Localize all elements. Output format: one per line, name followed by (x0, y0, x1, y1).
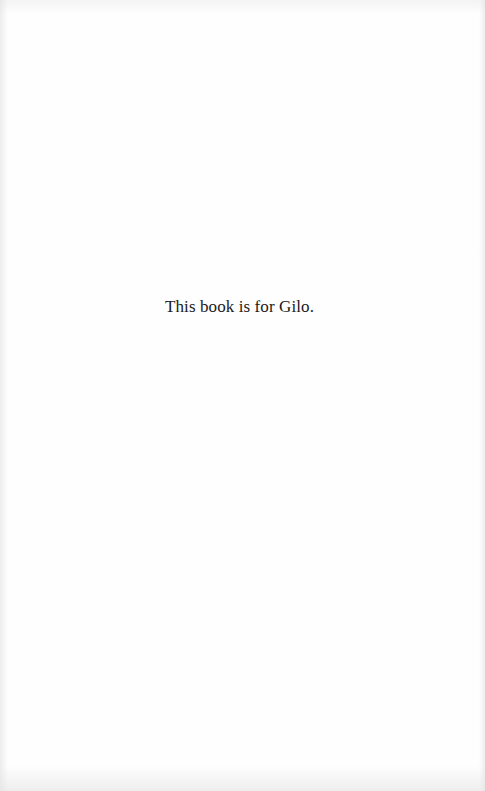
book-page: This book is for Gilo. (0, 0, 485, 791)
scan-edge-right (479, 0, 485, 791)
dedication-text: This book is for Gilo. (165, 297, 314, 317)
scan-edge-top (0, 0, 485, 14)
scan-edge-left (0, 0, 8, 791)
scan-edge-bottom (0, 765, 485, 791)
